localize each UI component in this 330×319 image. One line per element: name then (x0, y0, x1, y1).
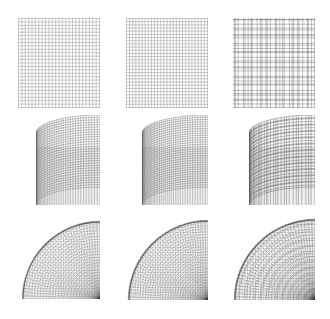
cylinder-mesh-panel-3 (249, 115, 315, 205)
cylinder-mesh-panel-2 (142, 115, 208, 205)
flat-square-grid-mesh-panel-2 (126, 18, 208, 108)
quarter-disc-mesh-panel-1 (22, 220, 100, 299)
quarter-disc-mesh-panel-3 (234, 218, 315, 300)
flat-square-grid-mesh-panel-1 (18, 18, 100, 108)
cylinder-mesh-panel-1 (36, 115, 100, 205)
flat-square-grid-mesh-panel-3 (233, 18, 315, 108)
quarter-disc-mesh-panel-2 (127, 220, 208, 300)
